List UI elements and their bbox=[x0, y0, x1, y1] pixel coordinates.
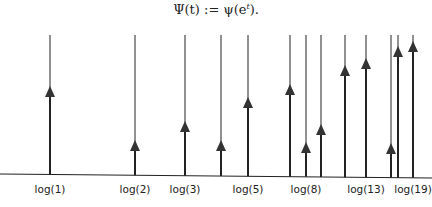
spike-log-19: log(19) bbox=[394, 35, 432, 195]
arrow-head-icon bbox=[393, 46, 403, 57]
tick-label: log(1) bbox=[35, 183, 66, 195]
spike-log-7 bbox=[285, 35, 295, 177]
arrow-head-icon bbox=[301, 142, 311, 153]
arrow-head-icon bbox=[285, 84, 295, 95]
tick-label: log(2) bbox=[120, 183, 151, 195]
arrow-head-icon bbox=[340, 65, 350, 76]
spike-diagram: log(1)log(2)log(3)log(5)log(8)log(13)log… bbox=[0, 0, 432, 207]
tick-label: log(13) bbox=[347, 183, 385, 195]
arrow-head-icon bbox=[316, 124, 326, 135]
arrow-head-icon bbox=[180, 121, 190, 132]
spike-log-3: log(3) bbox=[170, 35, 201, 195]
baseline-axis bbox=[0, 174, 432, 178]
tick-label: log(3) bbox=[170, 183, 201, 195]
tick-label: log(19) bbox=[394, 183, 432, 195]
arrow-head-icon bbox=[386, 143, 396, 154]
spike-log-1: log(1) bbox=[35, 35, 66, 195]
arrow-head-icon bbox=[361, 58, 371, 69]
arrow-head-icon bbox=[408, 41, 418, 52]
spike-log-5: log(5) bbox=[233, 35, 264, 195]
arrow-head-icon bbox=[243, 97, 253, 108]
tick-label: log(5) bbox=[233, 183, 264, 195]
spike-log-8: log(8) bbox=[291, 35, 322, 195]
spike-log-2: log(2) bbox=[120, 35, 151, 195]
spike-log-11 bbox=[340, 35, 350, 177]
arrow-head-icon bbox=[45, 86, 55, 97]
spike-log-4 bbox=[216, 35, 226, 176]
tick-label: log(8) bbox=[291, 183, 322, 195]
spike-log-9 bbox=[316, 35, 326, 177]
spike-log-13: log(13) bbox=[347, 35, 385, 195]
arrow-head-icon bbox=[216, 140, 226, 151]
arrow-head-icon bbox=[130, 140, 140, 151]
spike-log-17 bbox=[393, 35, 403, 178]
